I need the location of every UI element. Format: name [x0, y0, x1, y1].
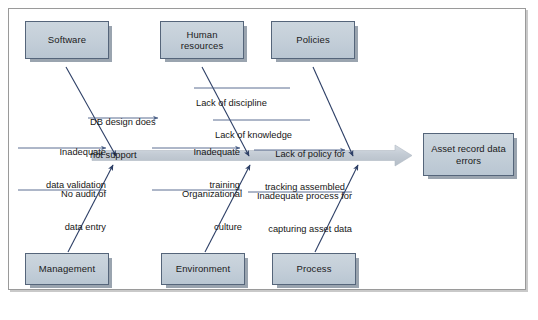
- category-label-process: Process: [296, 263, 331, 275]
- category-label-human-resources-line2: resources: [181, 40, 224, 52]
- cause-lack-of-policy-tracking-line1: Lack of policy for: [252, 149, 345, 160]
- category-box-process[interactable]: Process: [272, 253, 356, 285]
- cause-organizational-culture-line2: culture: [150, 222, 242, 233]
- fishbone-diagram-root: Software Human resources Policies Manage…: [0, 0, 538, 320]
- cause-label-no-audit-data-entry: No audit of data entry: [16, 167, 106, 255]
- cause-label-organizational-culture: Organizational culture: [150, 167, 242, 255]
- category-label-human-resources-line1: Human: [186, 29, 217, 41]
- category-box-environment[interactable]: Environment: [161, 253, 245, 285]
- category-box-software[interactable]: Software: [25, 21, 109, 59]
- cause-inadequate-capture-process-line2: capturing asset data: [246, 224, 352, 235]
- cause-inadequate-capture-process-line1: Inadequate process for: [246, 191, 352, 202]
- effect-label-line1: Asset record data: [431, 143, 505, 155]
- cause-no-audit-data-entry-line1: No audit of: [16, 189, 106, 200]
- category-label-management: Management: [39, 263, 95, 275]
- category-box-human-resources[interactable]: Human resources: [160, 21, 244, 59]
- category-box-management[interactable]: Management: [25, 253, 109, 285]
- category-label-software: Software: [48, 34, 86, 46]
- cause-inadequate-training-line1: Inadequate: [150, 147, 240, 158]
- cause-inadequate-data-validation-line1: Inadequate: [14, 147, 106, 158]
- cause-no-audit-data-entry-line2: data entry: [16, 222, 106, 233]
- category-label-policies: Policies: [296, 34, 330, 46]
- cause-label-inadequate-capture-process: Inadequate process for capturing asset d…: [246, 169, 352, 257]
- category-box-policies[interactable]: Policies: [271, 21, 355, 59]
- category-label-environment: Environment: [176, 263, 230, 275]
- effect-box-asset-record-data-errors[interactable]: Asset record data errors: [423, 133, 514, 176]
- effect-label-line2: errors: [456, 155, 481, 167]
- cause-organizational-culture-line1: Organizational: [150, 189, 242, 200]
